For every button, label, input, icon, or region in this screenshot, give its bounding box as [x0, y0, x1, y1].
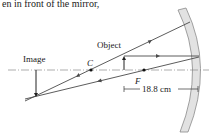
image-label: Image: [23, 54, 46, 64]
arrow-head-icon: [156, 54, 160, 58]
header-text: en in front of the mirror,: [2, 0, 99, 9]
center-label: C: [87, 58, 94, 68]
object-arrow-head-icon: [122, 56, 126, 60]
arrow-head-icon: [97, 79, 102, 83]
dimension-label: 18.8 cm: [142, 84, 171, 94]
center-of-curvature-point: [89, 68, 92, 71]
ray-parallel-reflected: [25, 57, 199, 99]
focal-point: [142, 68, 145, 71]
focal-label: F: [134, 76, 141, 86]
object-label: Object: [97, 40, 121, 50]
ray-diagram: en in front of the mirror, Object Image …: [0, 0, 209, 134]
